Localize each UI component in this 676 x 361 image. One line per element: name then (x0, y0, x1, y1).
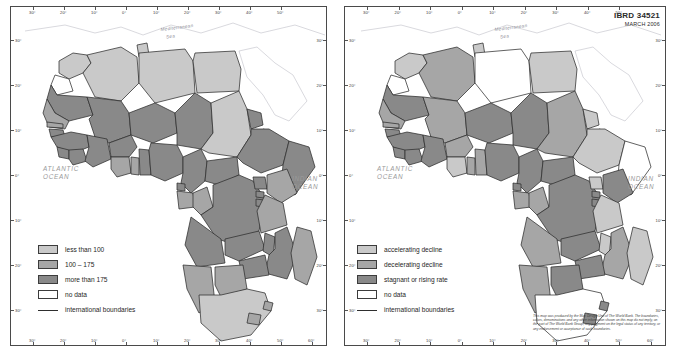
atlantic-ocean-label: ATLANTICOCEAN (43, 165, 79, 180)
graticule-tickmark (345, 175, 348, 176)
map-date: MARCH 2006 (614, 21, 660, 27)
legend-label: decelerating decline (384, 261, 443, 268)
country-lesotho[interactable] (247, 313, 261, 325)
country-cdivoire[interactable] (85, 135, 111, 167)
graticule-tickmark (662, 175, 665, 176)
country-swazi[interactable] (599, 301, 609, 311)
graticule-tickmark (493, 342, 494, 345)
country-swazi[interactable] (263, 301, 273, 311)
country-algeria[interactable] (419, 47, 475, 101)
country-togo[interactable] (131, 157, 139, 175)
graticule-tickmark (619, 7, 620, 10)
legend-row: more than 175 (38, 273, 135, 286)
graticule-tickmark (399, 342, 400, 345)
country-rwanda[interactable] (256, 191, 264, 198)
map-sheet: ATLANTICOCEAN INDIANOCEAN Mediterranean … (0, 0, 676, 361)
legend-row: decelerating decline (357, 258, 454, 271)
graticule-tickmark (188, 342, 189, 345)
country-egypt[interactable] (193, 51, 241, 93)
country-libya[interactable] (475, 49, 531, 103)
graticule-label-top: 30° (552, 10, 559, 15)
country-eqguinea[interactable] (177, 183, 185, 191)
country-niger[interactable] (465, 103, 513, 143)
country-libya[interactable] (139, 49, 195, 103)
graticule-tickmark (219, 342, 220, 345)
graticule-tickmark (11, 130, 14, 131)
legend-label: more than 175 (65, 276, 108, 283)
graticule-tickmark (345, 85, 348, 86)
country-cdivoire[interactable] (421, 135, 447, 167)
boundary-line-swatch (38, 305, 58, 315)
country-rwanda[interactable] (592, 191, 600, 198)
country-ghana[interactable] (447, 157, 467, 177)
graticule-label-top: 10° (426, 10, 433, 15)
atlantic-ocean-label: ATLANTICOCEAN (377, 165, 413, 180)
country-uganda[interactable] (253, 177, 267, 189)
country-eqguinea[interactable] (513, 183, 521, 191)
graticule-tickmark (64, 7, 65, 10)
graticule-tickmark (619, 342, 620, 345)
country-egypt[interactable] (529, 51, 577, 93)
graticule-tickmark (281, 342, 282, 345)
graticule-tickmark (323, 220, 326, 221)
legend-row: international boundaries (38, 303, 135, 316)
graticule-tickmark (367, 7, 368, 10)
country-nigeria[interactable] (485, 143, 519, 181)
graticule-tickmark (588, 7, 589, 10)
graticule-label-top: 10° (153, 10, 160, 15)
graticule-tickmark (662, 85, 665, 86)
graticule-label-left: 20° (15, 83, 22, 88)
graticule-label-left: 30° (15, 308, 22, 313)
graticule-tickmark (662, 310, 665, 311)
country-niger[interactable] (129, 103, 177, 143)
graticule-tickmark (525, 342, 526, 345)
country-nigeria[interactable] (149, 143, 183, 181)
country-madagasc[interactable] (291, 227, 317, 285)
country-gabon[interactable] (177, 191, 195, 209)
graticule-tickmark (95, 342, 96, 345)
graticule-label-left: 20° (349, 263, 356, 268)
graticule-tickmark (126, 342, 127, 345)
graticule-label-top: 30° (363, 10, 370, 15)
graticule-label-top: 30° (29, 10, 36, 15)
country-madagasc[interactable] (627, 227, 653, 285)
map-panel-right[interactable]: ATLANTICOCEAN INDIANOCEAN Mediterranean … (344, 6, 666, 346)
graticule-tickmark (493, 7, 494, 10)
legend-label: stagnant or rising rate (384, 276, 448, 283)
graticule-tickmark (11, 310, 14, 311)
graticule-label-left: 0° (349, 173, 353, 178)
graticule-tickmark (11, 265, 14, 266)
graticule-tickmark (95, 7, 96, 10)
country-gabon[interactable] (513, 191, 531, 209)
graticule-tickmark (250, 342, 251, 345)
graticule-tickmark (33, 342, 34, 345)
graticule-label-left: 30° (349, 38, 356, 43)
graticule-tickmark (662, 220, 665, 221)
country-liberia[interactable] (405, 149, 423, 165)
boundary-line-swatch (357, 305, 377, 315)
graticule-tickmark (430, 7, 431, 10)
graticule-tickmark (64, 342, 65, 345)
graticule-tickmark (430, 342, 431, 345)
country-liberia[interactable] (69, 149, 87, 165)
legend-row: international boundaries (357, 303, 454, 316)
map-panel-left[interactable]: ATLANTICOCEAN INDIANOCEAN Mediterranean … (10, 6, 327, 346)
country-togo[interactable] (467, 157, 475, 175)
country-ghana[interactable] (111, 157, 131, 177)
graticule-label-top: 50° (277, 10, 284, 15)
graticule-tickmark (250, 7, 251, 10)
graticule-tickmark (345, 40, 348, 41)
country-uganda[interactable] (589, 177, 603, 189)
indian-ocean-label: INDIANOCEAN (628, 175, 654, 190)
graticule-tickmark (11, 40, 14, 41)
legend-swatch-dark (357, 275, 377, 285)
legend-swatch-light (357, 245, 377, 255)
graticule-tickmark (345, 220, 348, 221)
country-algeria[interactable] (83, 47, 139, 101)
graticule-label-left: 30° (15, 38, 22, 43)
graticule-tickmark (462, 7, 463, 10)
legend-left: less than 100100 – 175more than 175no da… (38, 243, 135, 318)
legend-swatch-medium (38, 260, 58, 270)
legend-label: no data (65, 291, 87, 298)
graticule-tickmark (157, 342, 158, 345)
